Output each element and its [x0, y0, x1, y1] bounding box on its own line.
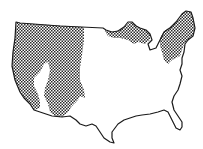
- region-northeast: [160, 11, 195, 64]
- us-map: [0, 0, 203, 149]
- region-great-lakes: [104, 22, 150, 44]
- region-west: [12, 22, 85, 117]
